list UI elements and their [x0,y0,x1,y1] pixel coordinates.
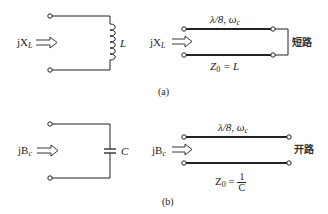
label-sub: c [237,18,241,27]
terminal-bottom [48,68,52,72]
label-main: jB [18,144,28,156]
caption-b: (b) [162,196,174,208]
inductor-coil-icon [110,24,115,60]
label-main: λ/8, ω [210,13,237,25]
label-z: Z [215,175,222,187]
label-rest: = L [220,60,239,72]
input-arrow-icon [172,36,192,47]
short-circuit-label: 短路 [292,37,312,49]
impedance-label: Z0 = 1C [215,172,246,193]
label-main: jX [17,36,28,48]
line-input-reactance-label: jXL [150,36,165,52]
label-eq: = [226,175,238,187]
line-length-label: λ/8, ωc [218,121,248,137]
label-sub: c [162,149,166,158]
label-sub: c [28,149,32,158]
label-main: jB [152,144,162,156]
terminal-top [48,14,52,18]
input-reactance-label: jXL [17,36,32,52]
input-arrow-icon [37,145,58,156]
line-length-label: λ/8, ωc [210,13,240,29]
inductor-label: L [120,37,126,49]
label-main: λ/8, ω [218,121,245,133]
label-main: jX [150,36,161,48]
open-circuit-line [182,135,291,165]
input-arrow-icon [36,37,57,48]
label-sub: c [245,126,249,135]
line-input-susceptance-label: jBc [152,144,166,160]
open-circuit-label: 开路 [294,144,314,156]
input-arrow-icon [172,144,192,155]
fraction-denominator: C [239,183,246,193]
impedance-label: Z0 = L [210,60,239,76]
circuit-drawing [0,0,328,214]
capacitor-label: C [121,145,128,157]
input-susceptance-label: jBc [18,144,32,160]
lumped-inductor-circuit [48,14,115,72]
fraction: 1C [237,172,246,193]
label-sub: L [161,41,165,50]
caption-a: (a) [158,86,169,98]
short-circuit-line [182,27,288,57]
label-sub: L [28,41,32,50]
